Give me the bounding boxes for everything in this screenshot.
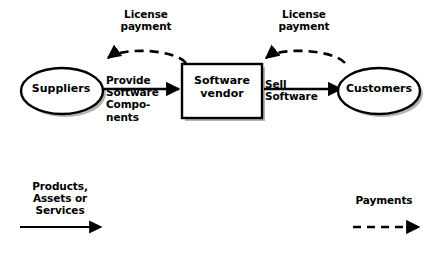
license-payment-right-curve	[266, 51, 345, 63]
legend-goods-flow-label: Products, Assets or Services	[12, 180, 108, 217]
sell-software-label: Sell Software	[265, 78, 337, 102]
license-payment-right-label: License payment	[262, 8, 346, 32]
vendor-node-label: Software vendor	[182, 74, 262, 100]
license-payment-left-label: License payment	[104, 8, 188, 32]
suppliers-node-label: Suppliers	[22, 82, 100, 95]
diagram-vector-layer	[0, 0, 442, 262]
legend-payments-label: Payments	[342, 194, 426, 206]
customers-node-label: Customers	[340, 82, 418, 95]
license-payment-left-curve	[108, 51, 186, 63]
diagram-canvas: Suppliers Software vendor Customers Lice…	[0, 0, 442, 262]
provide-software-components-label: Provide Software Compo- nents	[106, 74, 178, 123]
